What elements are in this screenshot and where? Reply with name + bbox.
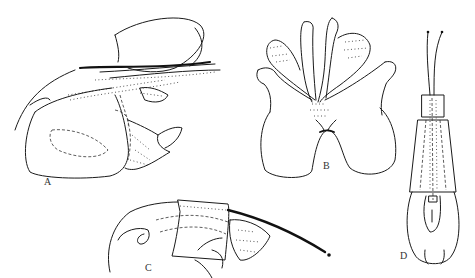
panel-b: B (240, 0, 380, 185)
panel-c: C (100, 190, 350, 278)
panel-a-drawing (0, 0, 240, 190)
panel-d-drawing (400, 0, 475, 278)
panel-label-a: A (44, 176, 51, 187)
panel-label-c: C (145, 262, 152, 273)
panel-a: A (0, 0, 240, 190)
panel-label-d: D (400, 250, 407, 261)
panel-label-b: B (323, 160, 330, 171)
panel-c-drawing (100, 190, 350, 278)
panel-b-drawing (240, 0, 380, 185)
panel-d: D (400, 0, 475, 278)
